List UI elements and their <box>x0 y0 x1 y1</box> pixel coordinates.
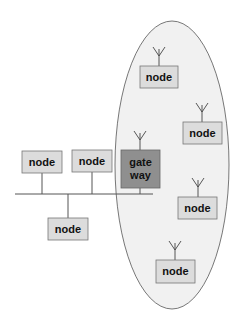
gateway-label-line2: way <box>129 169 152 181</box>
gateway-label-line1: gate <box>129 156 152 168</box>
wired-node: node <box>22 151 62 173</box>
node-label: node <box>29 156 55 168</box>
node-label: node <box>146 71 172 83</box>
node-label: node <box>184 202 210 214</box>
node-label: node <box>189 127 215 139</box>
wired-node: node <box>72 150 112 172</box>
wired-node: node <box>48 218 88 240</box>
node-label: node <box>162 265 188 277</box>
node-label: node <box>79 155 105 167</box>
node-label: node <box>55 223 81 235</box>
network-diagram: node node node gate way node <box>0 0 240 323</box>
